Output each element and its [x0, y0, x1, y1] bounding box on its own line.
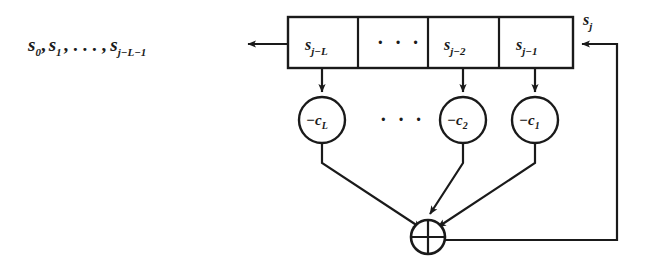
xor-adder: [410, 219, 446, 255]
multiplier-c2-sub: 2: [462, 120, 468, 131]
multiplier-c1-sub: 1: [535, 120, 540, 131]
adder-input-from-c1: [438, 143, 535, 227]
cell-0-sub: j−L: [309, 45, 328, 57]
cell-0-base: s: [304, 36, 311, 53]
cell-3-base: s: [515, 36, 522, 53]
output-term-n-base: s: [109, 34, 117, 55]
tap-lines: [322, 68, 535, 92]
multiplier-cL-base: −c: [306, 112, 322, 128]
multiplier-c2-label: −c2: [447, 112, 468, 131]
multiplier-c1-label: −c1: [519, 112, 540, 131]
output-sep-1: ,: [41, 34, 46, 55]
multiplier-c2: −c2: [440, 97, 486, 143]
output-sep-2: , . . . ,: [64, 34, 107, 55]
adder-input-from-cL: [322, 143, 421, 228]
input-base: s: [582, 11, 589, 28]
figure-canvas: s0,s1, . . . ,sj−L−1 sj−L · · · sj−2 sj−…: [0, 0, 645, 275]
adder-input-from-c2: [430, 143, 463, 214]
multiplier-c1: −c1: [512, 97, 558, 143]
cell-3-sub: j−1: [520, 45, 537, 57]
register-cell-2-label: sj−2: [443, 36, 466, 57]
register-cell-1-ellipsis: · · ·: [377, 31, 422, 53]
output-sequence-label: s0,s1, . . . ,sj−L−1: [27, 34, 146, 58]
multiplier-cL-label: −cL: [306, 112, 328, 131]
multiplier-ellipsis: · · ·: [380, 108, 425, 130]
register-cell-0-label: sj−L: [304, 36, 328, 57]
register-cell-3-label: sj−1: [515, 36, 537, 57]
cell-2-sub: j−2: [448, 45, 466, 57]
output-term-1-base: s: [48, 34, 56, 55]
output-term-1-sub: 1: [56, 46, 62, 58]
multiplier-cL-sub: L: [321, 120, 328, 131]
shift-register-box: [288, 17, 573, 68]
multiplier-c2-base: −c: [447, 112, 463, 128]
adder-input-lines: [322, 143, 535, 228]
input-label: sj: [582, 11, 593, 32]
output-term-0-base: s: [27, 34, 35, 55]
lfsr-diagram: s0,s1, . . . ,sj−L−1 sj−L · · · sj−2 sj−…: [0, 0, 645, 275]
multiplier-cL: −cL: [299, 97, 345, 143]
multiplier-c1-base: −c: [519, 112, 535, 128]
cell-2-base: s: [443, 36, 450, 53]
output-term-n-sub: j−L−1: [116, 46, 147, 58]
